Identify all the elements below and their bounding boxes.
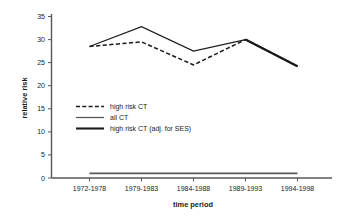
y-tick-label-35: 35	[37, 13, 45, 20]
chart-canvas: relative risk 35 30 25 20 15 10 5 0	[0, 0, 341, 220]
x-axis-ticks: 1972-1978 1979-1983 1984-1988 1989-1993 …	[73, 178, 315, 192]
x-tick-label-2: 1979-1983	[125, 185, 159, 192]
y-tick-label-10: 10	[37, 128, 45, 135]
y-axis-label: relative risk	[20, 77, 29, 119]
x-tick-label-1: 1972-1978	[73, 185, 107, 192]
legend-label-high-risk-ct: high risk CT	[110, 103, 148, 111]
x-axis-label: time period	[173, 200, 213, 209]
series-line-all-ct	[90, 27, 298, 67]
y-tick-label-30: 30	[37, 36, 45, 43]
x-tick-label-4: 1989-1993	[229, 185, 263, 192]
legend-label-high-risk-ct-adj-ses: high risk CT (adj. for SES)	[110, 125, 191, 133]
y-tick-label-15: 15	[37, 105, 45, 112]
series-line-high-risk-ct	[90, 40, 298, 67]
x-tick-label-5: 1994-1998	[281, 185, 315, 192]
y-axis-ticks: 35 30 25 20 15 10 5 0	[37, 13, 51, 182]
y-tick-label-20: 20	[37, 82, 45, 89]
y-tick-label-0: 0	[41, 175, 45, 182]
x-tick-label-3: 1984-1988	[177, 185, 211, 192]
y-tick-label-5: 5	[41, 151, 45, 158]
relative-risk-line-chart: relative risk 35 30 25 20 15 10 5 0	[0, 0, 341, 220]
chart-legend: high risk CT all CT high risk CT (adj. f…	[76, 103, 191, 133]
legend-label-all-ct: all CT	[110, 114, 129, 121]
y-tick-label-25: 25	[37, 59, 45, 66]
